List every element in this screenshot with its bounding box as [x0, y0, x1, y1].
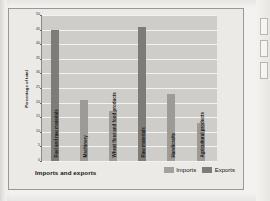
- gridline: 0: [42, 161, 217, 162]
- x-axis-title: Imports and exports: [35, 169, 96, 176]
- y-axis-title: Percentage of total: [25, 70, 29, 108]
- legend-label: Exports: [215, 167, 235, 173]
- y-tick-mark: [40, 161, 42, 162]
- category-label: Wheat flour and food products: [114, 93, 119, 158]
- legend-swatch: [164, 167, 174, 173]
- category-label: Handicrafts: [172, 133, 177, 158]
- category-label: Fuel and raw materials: [55, 110, 60, 158]
- scanned-chart-page: Percentage of total 50454035302520151050…: [0, 0, 270, 201]
- page-left-edge-shadow: [0, 0, 7, 201]
- plot-area: 50454035302520151050 Fuel and raw materi…: [41, 15, 217, 162]
- chart-frame: Percentage of total 50454035302520151050…: [8, 8, 244, 190]
- category-label: Machinery: [84, 136, 89, 158]
- y-axis-title-wrapper: Percentage of total: [27, 15, 35, 162]
- legend-swatch: [202, 167, 212, 173]
- legend-item: Imports: [164, 167, 197, 173]
- category-label: Raw materials: [143, 128, 148, 158]
- plot-area-wrapper: Percentage of total 50454035302520151050…: [31, 15, 217, 162]
- legend-label: Imports: [176, 167, 196, 173]
- chart-legend: ImportsExports: [164, 167, 235, 173]
- legend-item: Exports: [202, 167, 235, 173]
- category-label: Agricultural products: [201, 112, 206, 158]
- bar-series: [42, 15, 217, 161]
- page-margin-marks: [258, 18, 268, 82]
